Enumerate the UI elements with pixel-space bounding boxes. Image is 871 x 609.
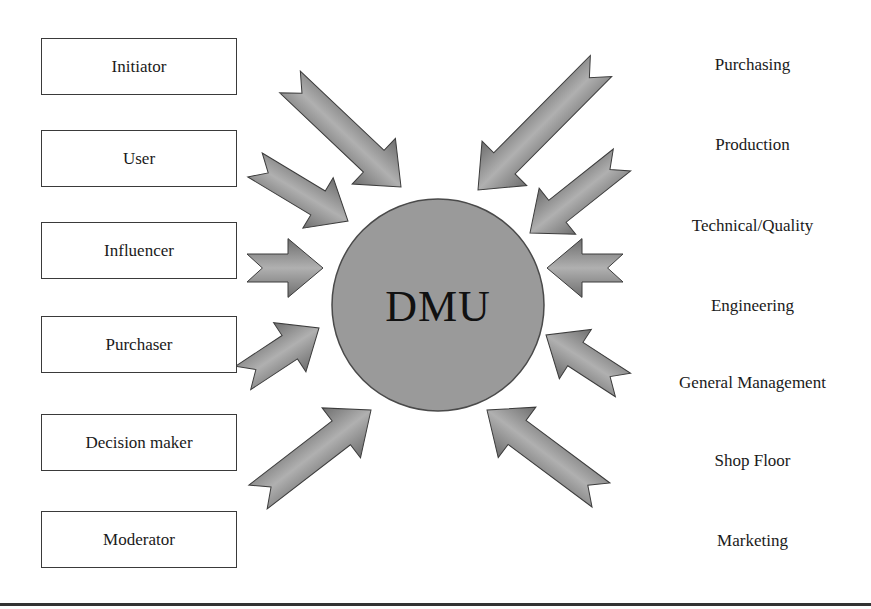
role-label: Decision maker (85, 433, 192, 453)
arrow-general-management-icon (530, 310, 639, 409)
arrow-influencer-icon (247, 239, 323, 298)
dept-label-purchasing: Purchasing (650, 55, 855, 75)
role-box-purchaser: Purchaser (41, 316, 237, 373)
dept-label-technical-quality: Technical/Quality (650, 216, 855, 236)
role-label: Purchaser (105, 335, 172, 355)
dmu-label: DMU (332, 220, 544, 392)
dept-label-shop-floor: Shop Floor (650, 451, 855, 471)
role-box-user: User (41, 130, 237, 187)
bottom-rule (0, 603, 871, 606)
role-box-initiator: Initiator (41, 38, 237, 95)
arrow-decision-maker-icon (239, 385, 390, 522)
role-label: Influencer (104, 241, 174, 261)
arrow-purchaser-icon (227, 303, 335, 402)
role-label: Initiator (112, 57, 167, 77)
arrow-technical-icon (547, 239, 623, 298)
role-label: User (123, 149, 155, 169)
role-box-moderator: Moderator (41, 511, 237, 568)
dept-label-engineering: Engineering (650, 296, 855, 316)
role-box-influencer: Influencer (41, 222, 237, 279)
role-box-decision-maker: Decision maker (41, 414, 237, 471)
role-label: Moderator (103, 530, 175, 550)
dept-label-marketing: Marketing (650, 531, 855, 551)
dept-label-production: Production (650, 135, 855, 155)
arrow-shop-floor-icon (468, 385, 620, 521)
dept-label-general-management: General Management (650, 373, 855, 393)
